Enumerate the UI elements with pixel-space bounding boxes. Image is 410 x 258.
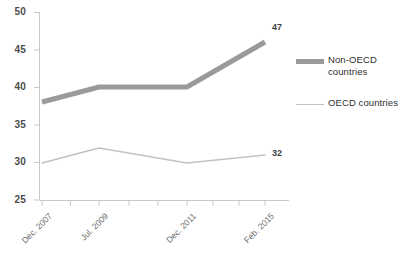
chart-legend: Non-OECD countries OECD countries	[296, 54, 408, 123]
y-tick-label-50: 50	[4, 6, 26, 17]
legend-label-non-oecd-line2: countries	[328, 66, 377, 78]
line-chart: 50 45 40 35 30 25 Dec. 2007 Jul. 2009 De…	[0, 0, 410, 258]
y-tick-label-25: 25	[4, 194, 26, 205]
series-line-oecd	[42, 148, 265, 163]
x-axis-ticks	[42, 201, 265, 207]
legend-swatch-oecd-icon	[296, 97, 328, 111]
y-tick-label-45: 45	[4, 44, 26, 55]
y-tick-label-35: 35	[4, 119, 26, 130]
legend-label-non-oecd: Non-OECD countries	[328, 54, 377, 77]
y-tick-label-30: 30	[4, 156, 26, 167]
legend-item-non-oecd: Non-OECD countries	[296, 54, 408, 77]
legend-item-oecd: OECD countries	[296, 97, 408, 111]
legend-label-oecd: OECD countries	[328, 97, 398, 109]
y-axis-ticks	[34, 13, 40, 201]
chart-canvas	[0, 0, 410, 258]
y-tick-label-40: 40	[4, 81, 26, 92]
legend-swatch-non-oecd-icon	[296, 54, 328, 68]
data-label-oecd-32: 32	[272, 148, 282, 158]
data-label-non-oecd-47: 47	[272, 22, 282, 32]
series-line-non-oecd	[42, 42, 265, 102]
legend-label-non-oecd-line1: Non-OECD	[328, 54, 377, 65]
